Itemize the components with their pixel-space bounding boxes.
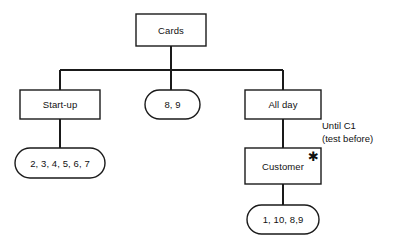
node-shape-cards[interactable] (136, 14, 206, 46)
node-shape-custlist[interactable] (247, 205, 319, 234)
node-shape-eightnine[interactable] (145, 90, 200, 119)
asterisk-icon: ✱ (308, 150, 319, 163)
node-shape-allday[interactable] (245, 90, 321, 119)
node-shape-startlist[interactable] (15, 148, 105, 178)
node-shape-startup[interactable] (20, 90, 100, 119)
annotation-line-1: Until C1 (322, 120, 373, 133)
annotation-until-c1: Until C1 (test before) (322, 120, 373, 145)
annotation-line-2: (test before) (322, 133, 373, 146)
diagram-canvas: Cards Start-up 8, 9 All day 2, 3, 4, 5, … (0, 0, 399, 246)
